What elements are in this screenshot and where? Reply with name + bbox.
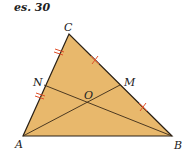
label-m: M <box>123 76 136 89</box>
triangle-diagram: C N M O A B <box>0 0 193 160</box>
label-c: C <box>64 21 73 34</box>
label-o: O <box>84 89 93 102</box>
label-b: B <box>173 139 182 152</box>
label-n: N <box>32 76 43 89</box>
triangle-abc <box>23 34 172 136</box>
label-a: A <box>14 138 23 151</box>
